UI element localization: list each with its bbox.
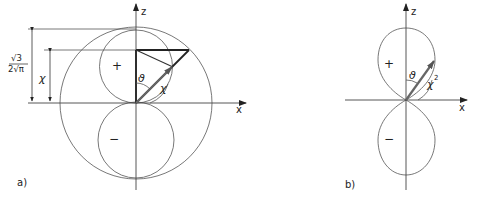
x-axis-label-b: x xyxy=(459,102,465,113)
dimension-outer-numerator: √3 xyxy=(11,53,22,63)
triangle-perpendicular xyxy=(136,50,173,67)
panel-a-caption: a) xyxy=(17,177,27,188)
x-axis-label: x xyxy=(236,104,242,115)
chi-label-b: χ xyxy=(426,78,434,91)
orbital-diagram-figure: z x + − ϑ χ χ √3 2√π a) z x + − ϑ χ 2 b xyxy=(0,0,479,204)
theta-label-b: ϑ xyxy=(409,69,416,82)
chi-exponent-b: 2 xyxy=(434,74,438,82)
panel-b: z x + − ϑ χ 2 b) xyxy=(345,4,467,190)
dimension-inner-label: χ xyxy=(38,72,46,85)
chi-vector-label: χ xyxy=(159,82,167,95)
upper-sign-label-b: + xyxy=(384,57,394,71)
dimension-outer-denominator: 2√π xyxy=(8,64,24,74)
upper-sign-label: + xyxy=(112,59,122,73)
panel-b-caption: b) xyxy=(345,179,355,190)
theta-label: ϑ xyxy=(138,72,145,85)
lower-sign-label-b: − xyxy=(384,132,394,146)
z-axis-label-b: z xyxy=(411,6,416,17)
z-axis-label: z xyxy=(141,6,146,17)
lower-sign-label: − xyxy=(109,132,119,146)
panel-a: z x + − ϑ χ χ √3 2√π a) xyxy=(8,4,246,190)
